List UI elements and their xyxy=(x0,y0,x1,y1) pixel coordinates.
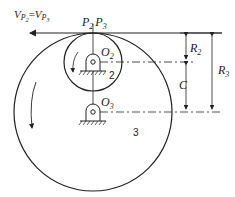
c-label: C xyxy=(179,78,188,92)
o3-label: O3 xyxy=(101,95,114,111)
velocity-label: VP2=VP3 xyxy=(14,8,49,23)
o2-label: O2 xyxy=(101,45,114,61)
gear-2-rotation-arrow xyxy=(73,52,78,72)
gear-3-rotation-arrow xyxy=(31,82,36,128)
gear-3-label: 3 xyxy=(133,127,139,138)
gear-2-label: 2 xyxy=(109,70,115,81)
diagram-canvas: VP2=VP3 P2P3 O2 O3 2 3 R2 C R3 xyxy=(0,0,235,197)
r2-label: R2 xyxy=(189,41,201,57)
r3-label: R3 xyxy=(217,63,229,79)
contact-point-label: P2P3 xyxy=(81,15,107,31)
gear-diagram: VP2=VP3 P2P3 O2 O3 2 3 R2 C R3 xyxy=(0,0,235,197)
